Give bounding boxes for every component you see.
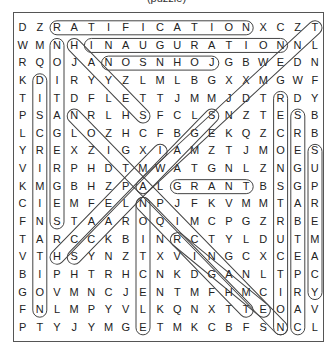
grid-cell[interactable]: H bbox=[66, 37, 83, 55]
grid-cell[interactable]: P bbox=[117, 178, 134, 196]
grid-cell[interactable]: J bbox=[169, 195, 186, 213]
grid-cell[interactable]: D bbox=[31, 72, 48, 90]
grid-cell[interactable]: N bbox=[100, 54, 117, 72]
grid-cell[interactable]: L bbox=[100, 107, 117, 125]
grid-cell[interactable]: E bbox=[272, 107, 289, 125]
grid-cell[interactable]: M bbox=[186, 213, 203, 231]
grid-cell[interactable]: Y bbox=[14, 142, 31, 160]
grid-cell[interactable]: T bbox=[255, 107, 272, 125]
grid-cell[interactable]: N bbox=[237, 266, 254, 284]
grid-cell[interactable]: F bbox=[83, 195, 100, 213]
grid-cell[interactable]: L bbox=[255, 266, 272, 284]
grid-cell[interactable]: H bbox=[117, 266, 134, 284]
grid-cell[interactable]: C bbox=[237, 248, 254, 266]
grid-cell[interactable]: H bbox=[83, 160, 100, 178]
grid-cell[interactable]: H bbox=[117, 107, 134, 125]
grid-cell[interactable]: Y bbox=[100, 72, 117, 90]
grid-cell[interactable]: R bbox=[289, 284, 306, 302]
grid-cell[interactable]: O bbox=[272, 301, 289, 319]
grid-cell[interactable]: T bbox=[203, 231, 220, 249]
grid-cell[interactable]: M bbox=[31, 178, 48, 196]
grid-cell[interactable]: L bbox=[117, 195, 134, 213]
grid-cell[interactable]: I bbox=[100, 19, 117, 37]
grid-cell[interactable]: C bbox=[31, 125, 48, 143]
grid-cell[interactable]: T bbox=[289, 231, 306, 249]
grid-cell[interactable]: N bbox=[31, 301, 48, 319]
grid-cell[interactable]: B bbox=[237, 54, 254, 72]
grid-cell[interactable]: I bbox=[48, 72, 65, 90]
grid-cell[interactable]: G bbox=[203, 266, 220, 284]
grid-cell[interactable]: F bbox=[306, 72, 323, 90]
grid-cell[interactable]: M bbox=[186, 284, 203, 302]
grid-cell[interactable]: E bbox=[48, 195, 65, 213]
grid-cell[interactable]: N bbox=[48, 37, 65, 55]
grid-cell[interactable]: V bbox=[48, 284, 65, 302]
grid-cell[interactable]: E bbox=[203, 125, 220, 143]
grid-cell[interactable]: C bbox=[203, 319, 220, 337]
grid-cell[interactable]: A bbox=[169, 160, 186, 178]
grid-cell[interactable]: B bbox=[289, 213, 306, 231]
grid-cell[interactable]: Z bbox=[289, 19, 306, 37]
grid-cell[interactable]: R bbox=[31, 142, 48, 160]
grid-cell[interactable]: B bbox=[306, 107, 323, 125]
grid-cell[interactable]: N bbox=[272, 319, 289, 337]
grid-cell[interactable]: I bbox=[31, 160, 48, 178]
grid-cell[interactable]: T bbox=[134, 90, 151, 108]
grid-cell[interactable]: Z bbox=[31, 19, 48, 37]
grid-cell[interactable]: X bbox=[220, 72, 237, 90]
grid-cell[interactable]: N bbox=[203, 248, 220, 266]
grid-cell[interactable]: O bbox=[134, 213, 151, 231]
grid-cell[interactable]: V bbox=[306, 301, 323, 319]
grid-cell[interactable]: F bbox=[152, 107, 169, 125]
grid-cell[interactable]: A bbox=[117, 37, 134, 55]
grid-cell[interactable]: S bbox=[289, 107, 306, 125]
grid-cell[interactable]: L bbox=[306, 37, 323, 55]
grid-cell[interactable]: E bbox=[272, 54, 289, 72]
grid-cell[interactable]: C bbox=[289, 319, 306, 337]
grid-cell[interactable]: Z bbox=[100, 178, 117, 196]
grid-cell[interactable]: X bbox=[255, 248, 272, 266]
grid-cell[interactable]: E bbox=[255, 301, 272, 319]
grid-cell[interactable]: I bbox=[237, 37, 254, 55]
grid-cell[interactable]: L bbox=[237, 231, 254, 249]
grid-cell[interactable]: B bbox=[14, 266, 31, 284]
grid-cell[interactable]: N bbox=[272, 37, 289, 55]
grid-cell[interactable]: A bbox=[31, 231, 48, 249]
grid-cell[interactable]: P bbox=[306, 178, 323, 196]
grid-cell[interactable]: N bbox=[272, 160, 289, 178]
grid-cell[interactable]: R bbox=[48, 19, 65, 37]
grid-cell[interactable]: N bbox=[220, 160, 237, 178]
grid-cell[interactable]: A bbox=[306, 248, 323, 266]
grid-cell[interactable]: A bbox=[134, 178, 151, 196]
grid-cell[interactable]: L bbox=[48, 301, 65, 319]
grid-cell[interactable]: T bbox=[83, 266, 100, 284]
grid-cell[interactable]: S bbox=[48, 213, 65, 231]
grid-cell[interactable]: Z bbox=[255, 125, 272, 143]
grid-cell[interactable]: A bbox=[220, 266, 237, 284]
grid-cell[interactable]: Z bbox=[117, 248, 134, 266]
grid-cell[interactable]: G bbox=[169, 178, 186, 196]
grid-cell[interactable]: B bbox=[306, 125, 323, 143]
grid-cell[interactable]: T bbox=[152, 90, 169, 108]
grid-cell[interactable]: M bbox=[237, 195, 254, 213]
grid-cell[interactable]: N bbox=[31, 213, 48, 231]
grid-cell[interactable]: T bbox=[186, 19, 203, 37]
grid-cell[interactable]: C bbox=[83, 231, 100, 249]
grid-cell[interactable]: T bbox=[220, 37, 237, 55]
grid-cell[interactable]: A bbox=[289, 301, 306, 319]
grid-cell[interactable]: T bbox=[83, 19, 100, 37]
grid-cell[interactable]: P bbox=[220, 213, 237, 231]
grid-cell[interactable]: H bbox=[169, 54, 186, 72]
grid-cell[interactable]: O bbox=[48, 54, 65, 72]
grid-cell[interactable]: T bbox=[272, 195, 289, 213]
grid-cell[interactable]: G bbox=[203, 72, 220, 90]
grid-cell[interactable]: R bbox=[306, 195, 323, 213]
grid-cell[interactable]: C bbox=[152, 19, 169, 37]
grid-cell[interactable]: R bbox=[289, 125, 306, 143]
grid-cell[interactable]: L bbox=[237, 160, 254, 178]
grid-cell[interactable]: M bbox=[255, 195, 272, 213]
grid-cell[interactable]: M bbox=[66, 284, 83, 302]
grid-cell[interactable]: C bbox=[272, 125, 289, 143]
grid-cell[interactable]: G bbox=[203, 160, 220, 178]
grid-cell[interactable]: T bbox=[237, 178, 254, 196]
